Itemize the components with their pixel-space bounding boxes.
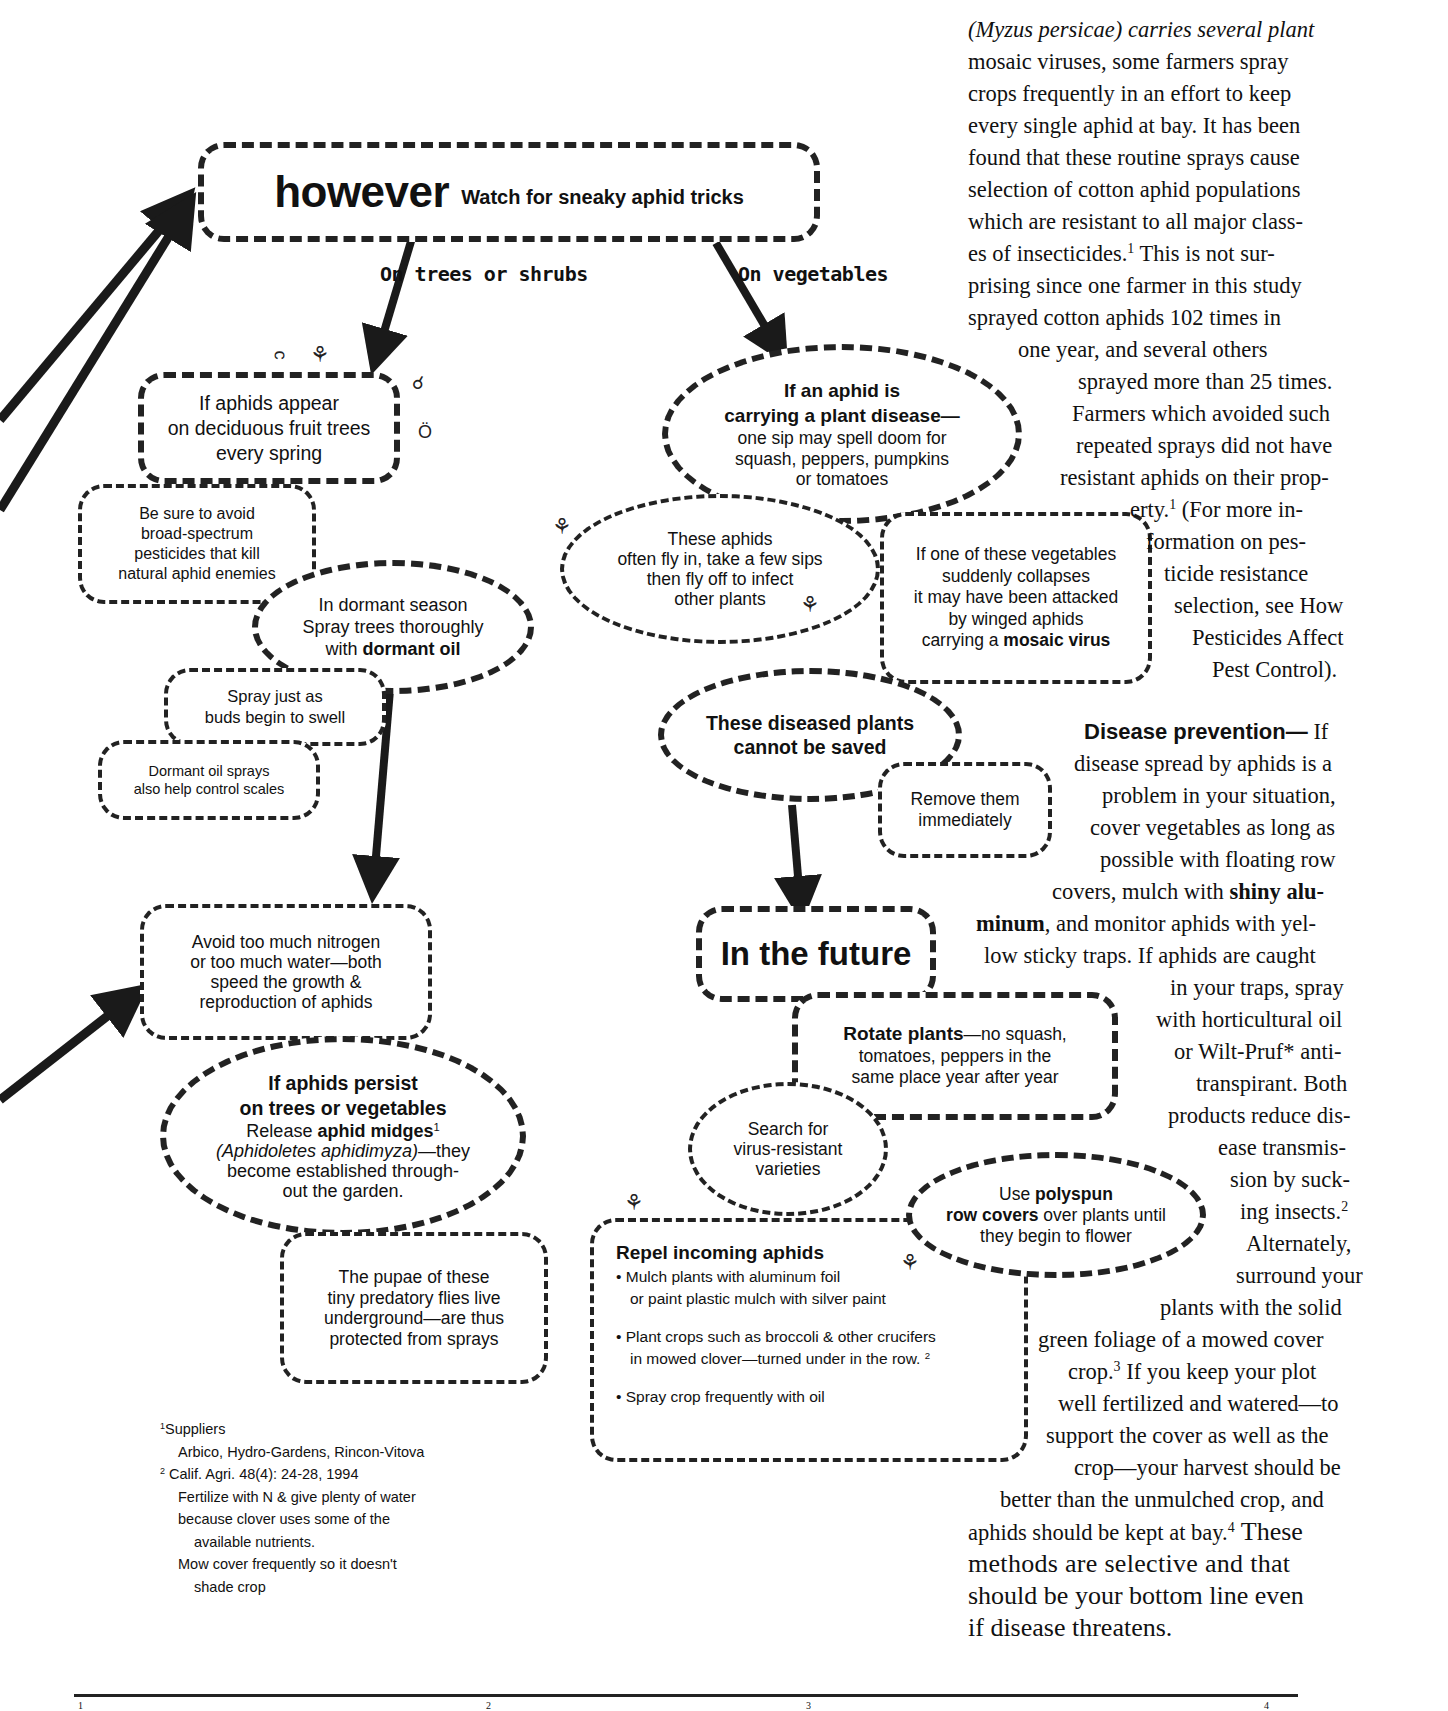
text-fragment: carrying a xyxy=(922,630,1004,650)
footnote-body: because clover uses some of the xyxy=(160,1508,424,1531)
footnote-body: shade crop xyxy=(160,1576,424,1599)
text-fragment: , and monitor aphids with yel- xyxy=(1045,911,1316,936)
aphid-icon: Ö xyxy=(418,422,432,443)
text-fragment: erty. xyxy=(1130,497,1169,522)
winged-aphid-icon: ⚘ xyxy=(900,1250,920,1276)
text-line: repeated sprays did not have xyxy=(1076,430,1332,462)
text-line: on deciduous fruit trees xyxy=(168,416,371,441)
ellipse-polyspun: Use polyspun row covers over plants unti… xyxy=(906,1152,1206,1278)
ellipse-search-varieties: Search for virus-resistant varieties xyxy=(688,1082,888,1216)
text-fragment: ing insects. xyxy=(1240,1199,1341,1224)
footnote-1: 1Suppliers xyxy=(160,1418,424,1441)
text-line: If one of these vegetables xyxy=(916,544,1116,566)
text-bold: aphid midges xyxy=(317,1121,433,1141)
text-line: cover vegetables as long as xyxy=(1090,812,1335,844)
text-fragment: Use xyxy=(999,1184,1035,1204)
text-line: squash, peppers, pumpkins xyxy=(735,449,949,470)
text-line: sprayed cotton aphids 102 times in xyxy=(968,302,1281,334)
footnotes: 1Suppliers Arbico, Hydro-Gardens, Rincon… xyxy=(160,1418,424,1598)
ellipse-fly-in: These aphids often fly in, take a few si… xyxy=(560,494,880,644)
text-line: protected from sprays xyxy=(329,1329,498,1350)
text-line: which are resistant to all major class- xyxy=(968,206,1303,238)
text-line: should be your bottom line even xyxy=(968,1580,1304,1612)
text-fragment: If xyxy=(1308,719,1329,744)
text-line: selection, see How xyxy=(1174,590,1343,622)
text-bold: Rotate plants xyxy=(843,1023,963,1044)
text-line: every single aphid at bay. It has been xyxy=(968,110,1300,142)
text-line: resistant aphids on their prop- xyxy=(1060,462,1329,494)
text-line: tiny predatory flies live xyxy=(327,1288,500,1309)
text-line: ticide resistance xyxy=(1164,558,1308,590)
text-bold: These diseased plants xyxy=(706,711,914,735)
text-line: if disease threatens. xyxy=(968,1612,1172,1644)
text-line: Farmers which avoided such xyxy=(1072,398,1330,430)
footnote-ref: 3 xyxy=(1114,1359,1121,1374)
text-line: ing insects.2 xyxy=(1240,1196,1348,1228)
text-line: Pest Control). xyxy=(1212,654,1337,686)
bottom-mark: 1 xyxy=(78,1700,83,1711)
text-line: by winged aphids xyxy=(948,609,1083,631)
box-pupae: The pupae of these tiny predatory flies … xyxy=(280,1232,548,1384)
text-fragment: with xyxy=(325,639,362,659)
text-line: transpirant. Both xyxy=(1196,1068,1347,1100)
text-line: with horticultural oil xyxy=(1156,1004,1342,1036)
text-line: same place year after year xyxy=(851,1067,1058,1089)
footnote-title: Suppliers xyxy=(165,1421,225,1437)
winged-aphid-icon: ⚘ xyxy=(310,342,330,368)
text-line: es of insecticides.1 This is not sur- xyxy=(968,238,1275,270)
ellipse-aphids-persist: If aphids persist on trees or vegetables… xyxy=(160,1036,526,1236)
text-line: If aphids appear xyxy=(199,391,339,416)
text-line: low sticky traps. If aphids are caught xyxy=(984,940,1316,972)
text-line: Search for xyxy=(748,1119,829,1139)
box-aphids-appear: If aphids appear on deciduous fruit tree… xyxy=(138,372,400,484)
bottom-rule xyxy=(74,1694,1298,1697)
text-line: Alternately, xyxy=(1246,1228,1351,1260)
footnote-mark: 2 xyxy=(160,1466,165,1476)
footnote-ref: 2 xyxy=(1341,1199,1348,1214)
text-line: varieties xyxy=(755,1159,820,1179)
text-line: better than the unmulched crop, and xyxy=(1000,1484,1324,1516)
text-line: Disease prevention— If xyxy=(1084,716,1328,748)
text-fragment: (Myzus persicae) carries several plant xyxy=(968,17,1314,42)
text-line: other plants xyxy=(674,589,765,609)
text-line: Rotate plants—no squash, xyxy=(843,1023,1066,1046)
text-line: or tomatoes xyxy=(796,469,888,490)
text-fragment: If you keep your plot xyxy=(1121,1359,1317,1384)
bullet-continuation: or paint plastic mulch with silver paint xyxy=(616,1288,886,1310)
text-line: suddenly collapses xyxy=(942,566,1090,588)
text-line: with dormant oil xyxy=(325,638,460,660)
text-bold: polyspun xyxy=(1035,1184,1113,1204)
footnote-ref: 2 xyxy=(925,1350,930,1361)
text-line: tomatoes, peppers in the xyxy=(859,1046,1052,1068)
text-fragment: covers, mulch with xyxy=(1052,879,1229,904)
text-line: buds begin to swell xyxy=(205,707,345,728)
text-line: every spring xyxy=(216,441,322,466)
bottom-mark: 4 xyxy=(1264,1700,1269,1711)
text-line: speed the growth & xyxy=(211,972,362,992)
text-line: (Aphidoletes aphidimyza)—they xyxy=(216,1141,470,1161)
text-line: or too much water—both xyxy=(190,952,382,972)
text-line: Spray trees thoroughly xyxy=(302,616,483,638)
footnote-2: 2 Calif. Agri. 48(4): 24-28, 1994 xyxy=(160,1463,424,1486)
text-fragment: —they xyxy=(418,1141,470,1161)
box-spray-timing: Spray just as buds begin to swell xyxy=(164,668,386,746)
bullet-item: • Spray crop frequently with oil xyxy=(616,1386,825,1408)
text-fragment: This is not sur- xyxy=(1134,241,1274,266)
aphid-icon: ᴒ xyxy=(274,344,285,365)
text-line: then fly off to infect xyxy=(647,569,794,589)
box-avoid-nitrogen: Avoid too much nitrogen or too much wate… xyxy=(140,904,432,1040)
header-title: however xyxy=(274,167,449,217)
section-title: In the future xyxy=(721,935,912,973)
text-line: support the cover as well as the xyxy=(1046,1420,1328,1452)
box-remove-immediately: Remove them immediately xyxy=(878,762,1052,858)
bottom-mark: 3 xyxy=(806,1700,811,1711)
text-line: mosaic viruses, some farmers spray xyxy=(968,46,1289,78)
text-fragment: (For more in- xyxy=(1176,497,1303,522)
text-fragment: aphids should be kept at bay. xyxy=(968,1520,1228,1545)
text-line: Use polyspun xyxy=(999,1184,1113,1205)
text-fragment: —no squash, xyxy=(964,1024,1067,1044)
bullet-continuation: in mowed clover—turned under in the row.… xyxy=(616,1348,930,1370)
text-fragment: in mowed clover—turned under in the row. xyxy=(630,1350,920,1367)
text-bold: Repel incoming aphids xyxy=(616,1240,824,1266)
text-line: crops frequently in an effort to keep xyxy=(968,78,1291,110)
